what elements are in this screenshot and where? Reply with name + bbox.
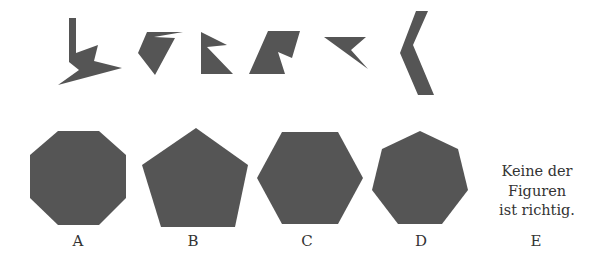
option-b-label[interactable]: B bbox=[173, 232, 213, 250]
option-e-label[interactable]: E bbox=[516, 232, 556, 250]
puzzle-piece-5 bbox=[324, 37, 368, 69]
puzzle-piece-6 bbox=[400, 11, 434, 95]
puzzle-piece-2 bbox=[138, 32, 183, 75]
option-e-line-3: ist richtig. bbox=[495, 201, 579, 221]
shapes-canvas bbox=[0, 0, 600, 265]
option-e-line-2: Figuren bbox=[495, 182, 579, 202]
puzzle-pieces-row bbox=[58, 11, 434, 95]
puzzle-piece-1 bbox=[58, 18, 122, 85]
option-c-hexagon[interactable] bbox=[257, 132, 363, 224]
puzzle-piece-3 bbox=[201, 32, 233, 74]
option-e-line-1: Keine der bbox=[495, 162, 579, 182]
option-d-heptagon[interactable] bbox=[372, 131, 468, 224]
option-c-label[interactable]: C bbox=[287, 232, 327, 250]
option-e-text[interactable]: Keine der Figuren ist richtig. bbox=[495, 162, 579, 221]
answer-options-row bbox=[30, 128, 468, 227]
option-b-pentagon[interactable] bbox=[142, 128, 248, 227]
puzzle-piece-4 bbox=[249, 31, 300, 74]
option-a-octagon[interactable] bbox=[30, 131, 126, 225]
puzzle-figure: Keine der Figuren ist richtig. A B C D E bbox=[0, 0, 600, 265]
option-d-label[interactable]: D bbox=[401, 232, 441, 250]
option-a-label[interactable]: A bbox=[58, 232, 98, 250]
